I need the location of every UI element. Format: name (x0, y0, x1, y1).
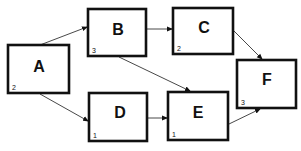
node-b: B 3 (88, 9, 146, 56)
network-diagram: A 2 B 3 C 2 D 1 E 1 F 3 (0, 0, 301, 151)
edge-a-to-d (40, 94, 88, 121)
node-c-duration: 2 (177, 45, 181, 52)
node-f: F 3 (237, 60, 296, 108)
node-b-label: B (112, 21, 124, 38)
node-d: D 1 (89, 93, 147, 141)
node-e-label: E (193, 104, 204, 121)
node-e-duration: 1 (172, 131, 176, 138)
edge-c-to-f (233, 30, 262, 59)
edge-a-to-b (40, 27, 87, 45)
node-c-label: C (198, 19, 210, 36)
node-e: E 1 (168, 92, 228, 140)
node-d-duration: 1 (93, 132, 97, 139)
node-a-label: A (33, 58, 45, 75)
node-d-label: D (114, 104, 126, 121)
edge-b-to-e (119, 57, 190, 91)
node-b-duration: 3 (92, 47, 96, 54)
node-f-label: F (262, 71, 272, 88)
node-a-duration: 2 (12, 84, 16, 91)
node-a: A 2 (8, 45, 69, 93)
edge-e-to-f (229, 109, 260, 124)
node-c: C 2 (173, 8, 233, 54)
node-f-duration: 3 (241, 99, 245, 106)
